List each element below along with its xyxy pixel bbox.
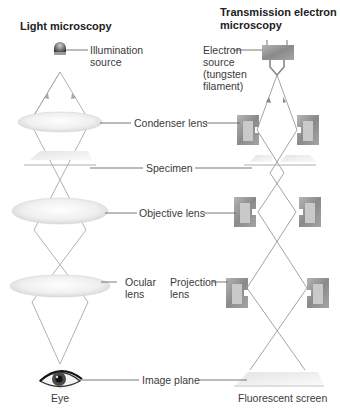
fluorescent-screen-icon <box>234 372 324 386</box>
illumination-source-icon <box>54 42 66 55</box>
condenser-lens-label: Condenser lens <box>134 117 208 129</box>
light-microscope <box>10 42 110 395</box>
eye-label: Eye <box>51 392 69 404</box>
tem-condenser-lens-icon <box>237 115 319 145</box>
ocular-lens-icon <box>10 275 110 297</box>
image-plane-label: Image plane <box>142 374 200 386</box>
electron-source-label: Electron source (tungsten filament) <box>203 44 247 92</box>
tem-objective-lens-icon <box>234 197 321 227</box>
objective-lens-icon <box>12 198 108 224</box>
ocular-lens-label: Ocular lens <box>125 276 156 300</box>
specimen-slide-icon <box>24 151 96 165</box>
fluorescent-screen-label: Fluorescent screen <box>238 392 327 404</box>
microscopy-comparison-diagram <box>0 0 340 411</box>
projection-lens-label: Projection lens <box>170 276 217 300</box>
condenser-lens-icon <box>18 112 102 132</box>
objective-lens-label: Objective lens <box>139 207 205 219</box>
tem-projection-lens-icon <box>226 278 329 308</box>
specimen-label: Specimen <box>146 162 193 174</box>
electron-source-icon <box>262 40 294 75</box>
light-microscopy-title: Light microscopy <box>20 20 112 33</box>
tem-title: Transmission electron microscopy <box>220 6 337 32</box>
illumination-source-label: Illumination source <box>90 44 143 68</box>
